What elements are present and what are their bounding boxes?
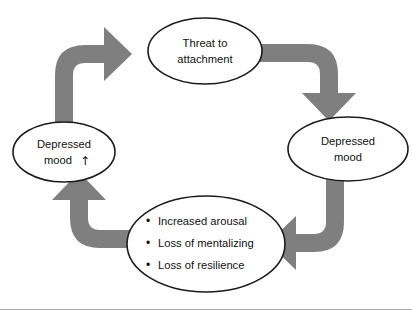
symptoms-bullet-glyph-3: • xyxy=(146,258,150,272)
depressed-mood-increased-ellipse xyxy=(13,122,115,182)
depressed-mood-line2: mood xyxy=(334,151,362,163)
node-depressed-mood-increased[interactable]: Depressed mood ↑ xyxy=(13,122,115,182)
threat-to-attachment-ellipse xyxy=(148,18,262,84)
depressed-mood-ellipse xyxy=(288,117,408,181)
symptoms-bullet-glyph-1: • xyxy=(146,214,150,228)
arrow-symptoms-to-depressed-mood-increased xyxy=(52,172,140,248)
threat-to-attachment-line1: Threat to xyxy=(183,37,228,49)
arrow-threat-to-depressed-mood xyxy=(258,44,356,121)
symptoms-list-item-2: Loss of mentalizing xyxy=(158,237,254,249)
node-symptoms-list[interactable]: • Increased arousal • Loss of mentalizin… xyxy=(127,196,285,292)
depressed-mood-increased-line2: mood xyxy=(44,154,72,166)
node-threat-to-attachment[interactable]: Threat to attachment xyxy=(148,18,262,84)
up-arrow-icon: ↑ xyxy=(80,154,90,168)
node-depressed-mood[interactable]: Depressed mood xyxy=(288,117,408,181)
figure-container: Threat to attachment Depressed mood • In… xyxy=(0,0,412,318)
symptoms-list-item-1: Increased arousal xyxy=(158,215,247,227)
threat-to-attachment-line2: attachment xyxy=(177,53,233,65)
cycle-diagram: Threat to attachment Depressed mood • In… xyxy=(0,0,412,318)
depressed-mood-line1: Depressed xyxy=(321,135,375,147)
symptoms-bullet-glyph-2: • xyxy=(146,236,150,250)
depressed-mood-increased-line1: Depressed xyxy=(37,138,91,150)
symptoms-list-item-3: Loss of resilience xyxy=(158,259,244,271)
arrow-depressed-mood-increased-to-threat xyxy=(55,27,132,122)
